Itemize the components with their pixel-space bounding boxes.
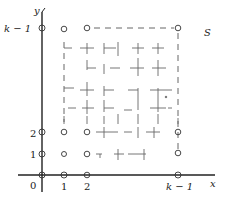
y-axis-label: y	[33, 5, 40, 16]
region-s-boundary	[64, 28, 178, 150]
y-tick-k-minus-1: k − 1	[4, 23, 31, 34]
x-tick-k-minus-1: k − 1	[166, 181, 193, 192]
interior-lattice-marks	[64, 42, 178, 160]
x-axis-label: x	[210, 178, 216, 189]
y-tick-2: 2	[30, 128, 36, 139]
y-tick-1: 1	[30, 149, 36, 160]
x-tick-1: 1	[61, 181, 67, 192]
region-label: S	[204, 27, 211, 38]
x-tick-2: 2	[84, 181, 90, 192]
lattice-diagram: y x S 0 1 2 k − 1 1 2 k − 1	[0, 0, 227, 203]
x-tick-0: 0	[30, 180, 36, 191]
